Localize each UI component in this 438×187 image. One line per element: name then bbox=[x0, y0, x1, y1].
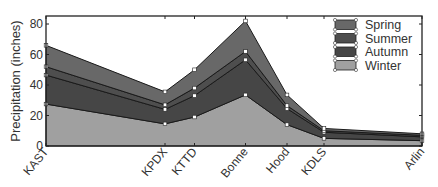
legend-label-summer: Summer bbox=[365, 32, 412, 46]
y-tick-label: 60 bbox=[30, 48, 44, 62]
legend-swatch-autumn bbox=[335, 47, 356, 57]
marker-spring bbox=[244, 19, 248, 23]
marker-winter bbox=[322, 137, 326, 141]
marker-summer bbox=[285, 104, 289, 108]
x-tick-label: KPDX bbox=[139, 145, 171, 179]
marker-summer bbox=[193, 86, 197, 90]
legend-label-autumn: Autumn bbox=[365, 45, 408, 59]
y-tick-label: 20 bbox=[30, 109, 44, 123]
marker-winter bbox=[163, 122, 167, 126]
stacked-area-chart: 020406080 KASTKPDXKTTDBonneHoodKDLSArlin… bbox=[0, 0, 438, 187]
x-tick-label: KAST bbox=[20, 144, 51, 178]
legend-swatch-summer bbox=[335, 34, 356, 44]
marker-spring bbox=[193, 68, 197, 72]
y-tick-label: 40 bbox=[30, 78, 44, 92]
legend-label-spring: Spring bbox=[365, 18, 401, 32]
x-tick-label: Arlin bbox=[401, 145, 427, 172]
x-tick-label: Bonne bbox=[218, 145, 251, 181]
marker-summer bbox=[244, 50, 248, 54]
legend-swatch-spring bbox=[335, 20, 356, 30]
legend: SpringSummerAutumnWinter bbox=[333, 18, 412, 73]
marker-summer bbox=[163, 103, 167, 107]
legend-label-winter: Winter bbox=[365, 59, 401, 73]
y-tick-label: 80 bbox=[30, 17, 44, 31]
x-tick-label: Hood bbox=[263, 145, 292, 176]
marker-spring bbox=[285, 93, 289, 97]
marker-spring bbox=[163, 90, 167, 94]
marker-winter bbox=[285, 123, 289, 127]
marker-autumn bbox=[193, 94, 197, 98]
marker-winter bbox=[244, 93, 248, 97]
x-tick-label: KDLS bbox=[298, 145, 329, 178]
marker-autumn bbox=[244, 58, 248, 62]
x-tick-label: KTTD bbox=[169, 145, 200, 178]
marker-winter bbox=[193, 115, 197, 119]
y-axis-label: Precipitation (inches) bbox=[8, 20, 23, 141]
marker-autumn bbox=[163, 108, 167, 112]
marker-spring bbox=[322, 127, 326, 131]
legend-swatch-winter bbox=[335, 61, 356, 71]
